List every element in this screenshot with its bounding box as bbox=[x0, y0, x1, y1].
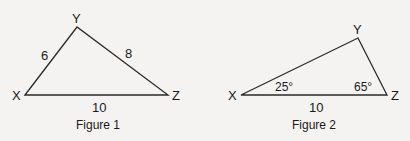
figure-caption-2: Figure 2 bbox=[292, 118, 336, 132]
diagram-canvas: Y X Z 6 8 10 Figure 1 Y X Z 25° 65° 10 F… bbox=[0, 0, 410, 141]
angle-label-z: 65° bbox=[354, 80, 372, 94]
figure-caption-1: Figure 1 bbox=[76, 118, 120, 132]
side-label-yz: 8 bbox=[125, 46, 132, 61]
side-label-xz: 10 bbox=[309, 100, 323, 115]
vertex-label-z: Z bbox=[172, 88, 180, 103]
vertex-label-y: Y bbox=[72, 11, 81, 26]
angle-label-x: 25° bbox=[275, 80, 293, 94]
side-label-xy: 6 bbox=[41, 48, 48, 63]
side-label-xz: 10 bbox=[92, 100, 106, 115]
figure-2: Y X Z 25° 65° 10 Figure 2 bbox=[228, 22, 399, 132]
figure-1: Y X Z 6 8 10 Figure 1 bbox=[12, 11, 180, 132]
vertex-label-y: Y bbox=[353, 22, 362, 37]
vertex-label-z: Z bbox=[391, 88, 399, 103]
vertex-label-x: X bbox=[12, 88, 21, 103]
vertex-label-x: X bbox=[228, 88, 237, 103]
